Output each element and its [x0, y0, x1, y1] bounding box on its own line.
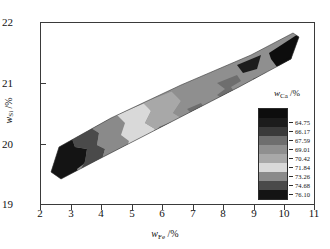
colorbar-tick-dash-7 [289, 185, 293, 186]
y-tick-label-19: 19 [0, 199, 13, 210]
colorbar-tick-label-4: 70.42 [295, 155, 310, 162]
x-tick-label-5: 5 [120, 208, 144, 219]
x-tick-label-10: 10 [272, 208, 296, 219]
colorbar-tick-dash-6 [289, 176, 293, 177]
x-axis-title-unit: /% [168, 228, 179, 239]
x-tick-label-4: 4 [89, 208, 113, 219]
colorbar-swatch-7 [259, 172, 287, 181]
x-tick-label-11: 11 [302, 208, 326, 219]
colorbar-swatch-9 [259, 190, 287, 199]
y-tick-label-20: 20 [0, 139, 13, 150]
x-tick-label-9: 9 [242, 208, 266, 219]
y-axis-title-sub: Si [7, 111, 15, 117]
y-tick-19 [41, 204, 46, 205]
colorbar-tick-8: 76.10 [289, 189, 310, 199]
colorbar-swatch-0 [259, 109, 287, 118]
colorbar-tick-dash-8 [289, 194, 293, 195]
colorbar-swatch-2 [259, 127, 287, 136]
colorbar-tick-label-1: 66.17 [295, 128, 310, 135]
colorbar-tick-dash-4 [289, 158, 293, 159]
x-axis-title-sub: Fe [158, 233, 165, 241]
x-tick-label-6: 6 [150, 208, 174, 219]
x-tick-label-3: 3 [59, 208, 83, 219]
colorbar-tick-label-2: 67.59 [295, 137, 310, 144]
x-axis-title: wFe /% [0, 228, 330, 241]
colorbar-title-sub: Ca [280, 92, 288, 100]
colorbar-swatch-1 [259, 118, 287, 127]
contour-plot-figure: 22 21 20 19 2 3 4 5 6 7 8 9 10 11 wFe /%… [0, 0, 330, 249]
x-tick-label-8: 8 [211, 208, 235, 219]
y-axis-title-unit: /% [3, 97, 14, 108]
colorbar-swatch-3 [259, 136, 287, 145]
colorbar-swatch-5 [259, 154, 287, 163]
colorbar-tick-label-6: 73.26 [295, 173, 310, 180]
y-tick-label-22: 22 [0, 17, 13, 28]
y-tick-22 [41, 22, 46, 23]
colorbar-tick-label-3: 69.01 [295, 146, 310, 153]
colorbar-swatch-6 [259, 163, 287, 172]
colorbar [258, 108, 288, 200]
colorbar-tick-label-7: 74.68 [295, 182, 310, 189]
colorbar-tick-label-0: 64.75 [295, 119, 310, 126]
y-tick-21 [41, 83, 46, 84]
colorbar-swatch-4 [259, 145, 287, 154]
x-tick-label-7: 7 [181, 208, 205, 219]
colorbar-tick-label-8: 76.10 [295, 191, 310, 198]
colorbar-tick-label-5: 71.84 [295, 164, 310, 171]
colorbar-title-unit: /% [290, 88, 300, 98]
colorbar-title: wCa /% [252, 88, 322, 100]
colorbar-labels: 64.7566.1767.5969.0170.4271.8473.2674.68… [289, 102, 329, 202]
colorbar-swatch-8 [259, 181, 287, 190]
y-axis-title: wSi /% [3, 80, 16, 140]
colorbar-tick-dash-2 [289, 140, 293, 141]
x-tick-label-2: 2 [28, 208, 52, 219]
colorbar-tick-dash-5 [289, 167, 293, 168]
y-tick-20 [41, 144, 46, 145]
colorbar-tick-dash-0 [289, 122, 293, 123]
y-axis-title-var: w [3, 117, 14, 124]
colorbar-tick-dash-3 [289, 149, 293, 150]
colorbar-tick-dash-1 [289, 131, 293, 132]
